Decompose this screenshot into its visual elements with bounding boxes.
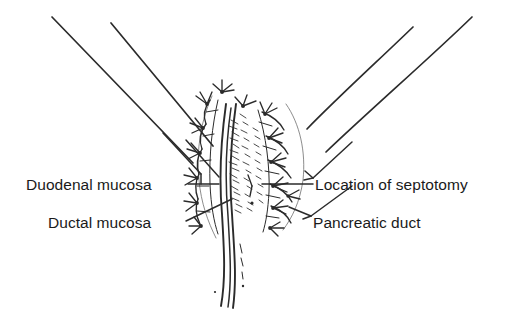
suture-knot-apex bbox=[213, 80, 234, 94]
suture-knot-r7 bbox=[286, 190, 300, 199]
duodenal-wall-right-inner bbox=[307, 27, 413, 129]
duct-lower-dot bbox=[242, 285, 244, 287]
suture-knot-apex-2 bbox=[235, 95, 256, 108]
suture-knot-r5 bbox=[271, 200, 288, 214]
sutures-right bbox=[258, 102, 300, 236]
suture-rung-r1 bbox=[259, 122, 272, 126]
suture-rung-r2 bbox=[263, 146, 276, 150]
leader-pancreatic-duct-arrow bbox=[303, 216, 311, 219]
duodenal-wall bbox=[52, 17, 472, 163]
leader-septotomy-arrow-1 bbox=[305, 171, 313, 178]
duct-wall-left bbox=[221, 104, 226, 306]
suture-knot-r6 bbox=[268, 222, 284, 236]
leader-duodenal-mucosa-diag bbox=[163, 133, 201, 174]
suture-knot-l3 bbox=[187, 143, 202, 159]
suture-knot-r2 bbox=[267, 128, 283, 143]
medical-illustration-figure: Duodenal mucosa Ductal mucosa Location o… bbox=[0, 0, 527, 329]
suture-rung-r3 bbox=[265, 171, 279, 174]
leader-septotomy-arrow-2 bbox=[304, 178, 313, 180]
suture-rung-r4 bbox=[266, 195, 280, 198]
fold-right-inner bbox=[258, 110, 269, 232]
duct-lower-dot-2 bbox=[214, 291, 216, 293]
label-pancreatic-duct: Pancreatic duct bbox=[313, 214, 421, 231]
sutures-left bbox=[184, 80, 256, 234]
label-ductal-mucosa: Ductal mucosa bbox=[48, 214, 151, 231]
label-location-of-septotomy: Location of septotomy bbox=[315, 176, 468, 193]
label-duodenal-mucosa: Duodenal mucosa bbox=[26, 176, 152, 193]
duct-lower-stipple-3 bbox=[242, 272, 243, 279]
suture-knot-r3 bbox=[269, 153, 286, 167]
septotomy-marker bbox=[248, 175, 254, 205]
duodenal-wall-right-outer bbox=[326, 17, 472, 152]
duct-wall-right bbox=[231, 104, 236, 308]
septum-hatching bbox=[229, 114, 263, 213]
duodenal-wall-left-outer bbox=[52, 17, 193, 163]
duct-lower-stipple bbox=[240, 244, 242, 253]
illustration-canvas: Duodenal mucosa Ductal mucosa Location o… bbox=[0, 0, 527, 329]
suture-rung-l1 bbox=[206, 110, 218, 112]
duodenal-wall-left-inner bbox=[111, 23, 213, 146]
suture-knot-l1 bbox=[196, 92, 212, 106]
suture-knot-r1 bbox=[260, 102, 277, 116]
duct-lower-stipple-2 bbox=[241, 258, 243, 266]
suture-rung-r5 bbox=[266, 216, 279, 218]
leader-septotomy-diag bbox=[313, 142, 352, 178]
suture-knot-l6 bbox=[189, 217, 203, 234]
